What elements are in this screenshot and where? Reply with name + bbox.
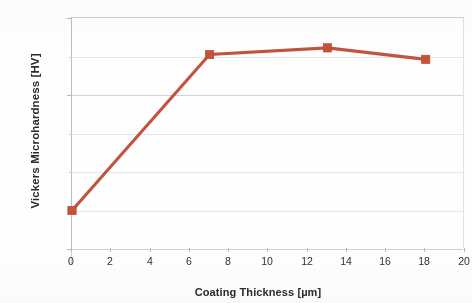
data-point-marker: [422, 55, 430, 63]
x-axis-tick-label: 0: [51, 255, 91, 267]
x-axis-tick-label: 4: [130, 255, 170, 267]
plot-area: [71, 17, 464, 248]
y-axis-title: Vickers Microhardness [HV]: [29, 39, 41, 224]
data-point-marker: [205, 50, 213, 58]
x-axis-tick-label: 16: [365, 255, 405, 267]
x-axis-tick-label: 10: [247, 255, 287, 267]
series-line: [72, 48, 426, 211]
x-axis-tick-label: 14: [326, 255, 366, 267]
x-axis-title: Coating Thickness [µm]: [0, 286, 472, 298]
x-axis-tick-label: 2: [90, 255, 130, 267]
x-axis-tick-label: 12: [287, 255, 327, 267]
x-axis-tick-label: 6: [169, 255, 209, 267]
data-series-layer: [72, 18, 465, 249]
x-axis-tick-label: 18: [404, 255, 444, 267]
data-point-marker: [323, 44, 331, 52]
x-axis-tick-label: 8: [208, 255, 248, 267]
chart-figure: Vickers Microhardness [HV] Coating Thick…: [0, 0, 472, 303]
data-point-marker: [68, 206, 76, 214]
x-axis-tick-label: 20: [444, 255, 472, 267]
